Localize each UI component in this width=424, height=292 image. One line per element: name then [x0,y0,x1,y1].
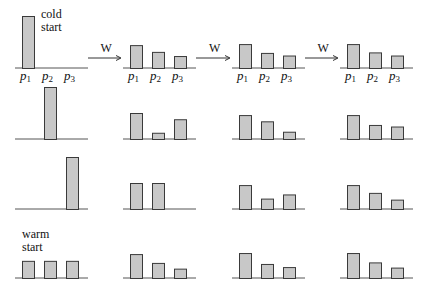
bar-p1 [240,116,252,140]
bar-p3 [67,158,79,210]
bar-p3 [284,56,296,68]
bar-p2 [370,263,382,279]
bar-p1 [240,186,252,210]
tick-label-p2: p2 [41,68,53,84]
bar-p2 [262,122,274,140]
bar-p1 [131,46,143,69]
annotation-line-1: warm [22,227,50,241]
bar-p2 [370,193,382,209]
annotation-line-2: start [41,20,62,34]
bar-p3 [392,56,404,68]
bar-p2 [153,133,165,139]
bar-p2 [45,261,57,278]
bar-p1 [348,45,360,69]
bar-p1 [131,255,143,279]
tick-label-p2: p2 [366,68,378,84]
annotation-line-2: start [22,240,43,254]
tick-label-p3: p3 [388,68,401,84]
bar-p2 [370,125,382,139]
annotation-line-1: cold [41,7,62,21]
bar-p1 [131,184,143,210]
tick-label-p2: p2 [149,68,161,84]
bar-p3 [392,268,404,278]
tick-label-p3: p3 [171,68,184,84]
bar-p1 [131,114,143,140]
tick-label-p1: p1 [127,68,139,84]
tick-label-p1: p1 [344,68,356,84]
bar-p2 [370,53,382,69]
bar-p2 [153,263,165,278]
bar-p2 [262,53,274,68]
tick-label-p1: p1 [19,68,31,84]
bar-p3 [284,195,296,210]
bar-p1 [348,186,360,210]
bar-p2 [153,52,165,68]
tick-label-p1: p1 [236,68,248,84]
bar-p2 [153,184,165,210]
tick-label-p3: p3 [63,68,76,84]
bar-p1 [23,17,35,69]
bar-p3 [175,57,187,69]
operator-label-w: W [318,41,330,55]
bar-p3 [392,200,404,209]
tick-label-p3: p3 [280,68,293,84]
bar-p2 [262,264,274,278]
bar-p3 [392,127,404,139]
bar-p1 [240,45,252,69]
tick-label-p2: p2 [258,68,270,84]
bar-p2 [45,88,57,140]
bar-p3 [284,132,296,139]
bar-p3 [67,261,79,278]
bar-p2 [262,199,274,209]
operator-label-w: W [101,41,113,55]
bar-p3 [175,269,187,278]
bar-p1 [348,116,360,140]
bar-p3 [175,120,187,140]
bar-p1 [240,254,252,279]
bar-p1 [23,261,35,278]
operator-label-w: W [209,41,221,55]
distribution-diagram: p1p2p3p1p2p3p1p2p3p1p2p3coldstartwarmsta… [0,0,424,292]
bar-p3 [284,268,296,279]
bar-p1 [348,254,360,279]
